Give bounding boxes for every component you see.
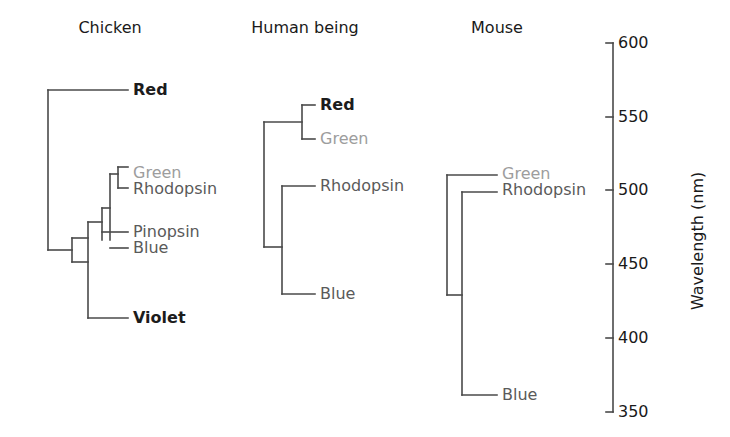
axis-tick-label-350: 350 xyxy=(618,404,649,420)
pigment-phylogeny-figure: Chicken Human being Mouse RedGreenRhodop… xyxy=(0,0,730,437)
axis-tick-label-500: 500 xyxy=(618,182,649,198)
axis-tick-label-550: 550 xyxy=(618,109,649,125)
axis-title-wavelength: Wavelength (nm) xyxy=(688,172,707,310)
axis-tick-label-450: 450 xyxy=(618,256,649,272)
wavelength-axis-layer xyxy=(0,0,730,437)
axis-tick-label-600: 600 xyxy=(618,35,649,51)
axis-tick-label-400: 400 xyxy=(618,330,649,346)
